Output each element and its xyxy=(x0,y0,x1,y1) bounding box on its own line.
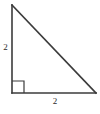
hypotenuse-line xyxy=(12,5,96,93)
right-triangle-figure: 2 2 xyxy=(0,0,100,114)
vertical-leg-length-label: 2 xyxy=(0,43,11,52)
horizontal-leg-length-label: 2 xyxy=(45,97,65,106)
right-angle-marker-icon xyxy=(12,81,24,93)
